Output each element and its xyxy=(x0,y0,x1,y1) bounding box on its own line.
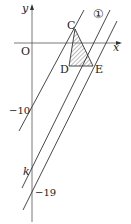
x-axis-label: x xyxy=(113,42,119,53)
triangle-cde xyxy=(69,29,93,66)
tick-k: k xyxy=(23,166,30,177)
line-1-label: ① xyxy=(93,8,104,20)
tick-minus-19: −19 xyxy=(35,188,56,198)
line-through-e xyxy=(23,21,117,210)
point-d-label: D xyxy=(60,64,69,75)
tick-minus-10: −10 xyxy=(9,106,30,116)
point-c-label: C xyxy=(67,20,75,31)
line-1 xyxy=(22,10,110,188)
origin-label: O xyxy=(21,46,30,57)
coordinate-diagram: y x O C D E ① −10 k −19 xyxy=(0,0,131,224)
y-axis-arrow-icon xyxy=(30,4,34,10)
y-axis-label: y xyxy=(22,3,28,14)
point-e-label: E xyxy=(95,64,103,75)
